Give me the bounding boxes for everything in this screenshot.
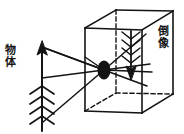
top-edge-back (116, 10, 173, 11)
light-rays (42, 34, 152, 122)
pinhole-camera-diagram (0, 0, 184, 134)
inverted-image-arrow (122, 31, 140, 80)
front-edge-bottom (85, 111, 142, 113)
ray-upper-grazing (42, 47, 104, 70)
ray-middle-incoming (42, 70, 104, 78)
hidden-edge-bottom-left (85, 93, 116, 111)
bottom-edge-right-diagonal (142, 94, 173, 113)
ray-bottom-incoming (43, 70, 104, 122)
ray-top-outgoing (104, 70, 147, 86)
top-edge-left-diagonal (85, 10, 116, 28)
hidden-edge-bottom-right (116, 93, 173, 94)
figure-canvas: 物体 倒像 (0, 0, 184, 134)
image-label: 倒像 (156, 25, 169, 49)
front-edge-top (85, 28, 142, 30)
object-arrow (30, 41, 54, 131)
pinhole-aperture (98, 61, 111, 80)
object-label: 物体 (3, 44, 16, 68)
